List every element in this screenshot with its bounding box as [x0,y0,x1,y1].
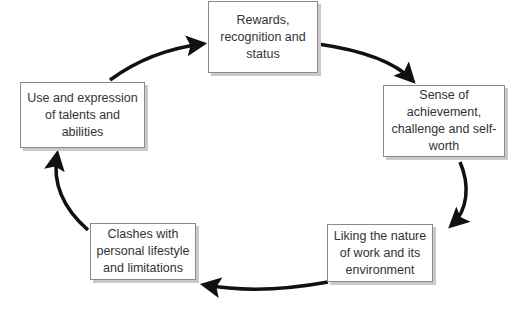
arrow-rewards-to-achievement [318,44,412,80]
arrow-liking-to-clashes [205,282,328,289]
node-rewards: Rewards, recognition and status [208,1,318,73]
node-talents: Use and expression of talents and abilit… [20,82,145,148]
node-rewards-label: Rewards, recognition and status [213,12,313,63]
node-clashes: Clashes with personal lifestyle and limi… [90,223,196,280]
node-liking-label: Liking the nature of work and its enviro… [332,228,428,279]
arrow-achievement-to-liking [452,162,466,225]
arrow-clashes-to-talents [56,155,88,230]
node-clashes-label: Clashes with personal lifestyle and limi… [95,226,191,277]
arrow-talents-to-rewards [110,44,202,80]
node-talents-label: Use and expression of talents and abilit… [25,90,140,141]
node-achievement-label: Sense of achievement, challenge and self… [388,87,500,155]
node-liking: Liking the nature of work and its enviro… [327,224,433,282]
node-achievement: Sense of achievement, challenge and self… [383,85,505,157]
